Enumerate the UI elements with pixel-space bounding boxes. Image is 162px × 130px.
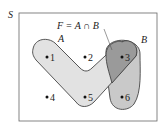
venn-diagram: S F = A ∩ B A B 1 2 3 4 5 6 [0,0,162,130]
svg-text:2: 2 [88,52,93,63]
set-a-label: A [57,33,65,44]
svg-text:6: 6 [125,92,130,103]
svg-text:3: 3 [125,52,130,63]
svg-text:5: 5 [88,92,93,103]
svg-text:4: 4 [50,92,55,103]
universe-label: S [8,9,13,20]
set-b-label: B [141,34,147,45]
svg-text:1: 1 [50,52,55,63]
formula-label: F = A ∩ B [56,20,99,31]
